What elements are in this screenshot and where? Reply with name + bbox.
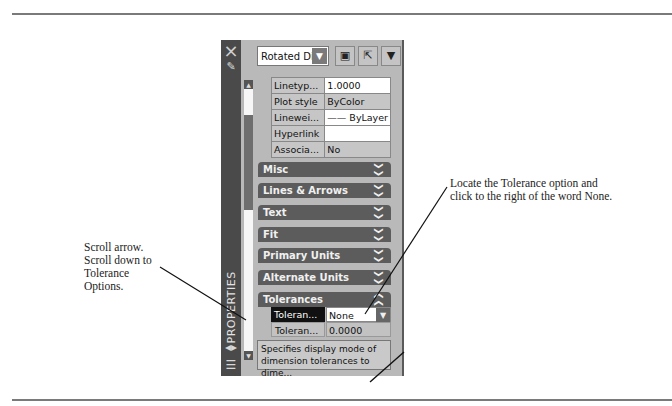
- property-value[interactable]: ByColor: [325, 94, 391, 110]
- callout-line: Scroll arrow.: [84, 241, 204, 254]
- scroll-down-arrow[interactable]: ▼: [244, 351, 253, 360]
- property-key: Linetyp...: [272, 78, 325, 94]
- property-key: Associa...: [272, 142, 325, 158]
- property-row[interactable]: Plot style ByColor: [272, 94, 391, 110]
- pin-icon[interactable]: ✎: [221, 60, 241, 73]
- category-primary-units[interactable]: Primary Units ❯❯: [258, 248, 391, 263]
- category-label: Alternate Units: [263, 272, 349, 283]
- collapse-icon[interactable]: ❯❯: [371, 292, 386, 307]
- property-value[interactable]: 0.0000: [326, 322, 391, 337]
- scroll-thumb[interactable]: [244, 115, 253, 210]
- callout-line: click to the right of the word None.: [450, 190, 670, 203]
- expand-icon[interactable]: ❯❯: [371, 248, 386, 263]
- scroll-track: [244, 89, 253, 115]
- property-value[interactable]: 1.0000: [325, 78, 391, 94]
- property-key: Toleran...: [271, 322, 325, 337]
- callout-line: Tolerance: [84, 267, 204, 280]
- property-value[interactable]: —— ByLayer: [325, 110, 391, 126]
- category-fit[interactable]: Fit ❯❯: [258, 227, 391, 242]
- expand-icon[interactable]: ❯❯: [371, 205, 386, 220]
- chevron-down-icon[interactable]: ▼: [376, 308, 390, 323]
- property-key: Toleran...: [271, 307, 325, 322]
- property-key: Plot style: [272, 94, 325, 110]
- category-label: Misc: [263, 164, 288, 175]
- category-label: Primary Units: [263, 250, 340, 261]
- callout-line: Options.: [84, 280, 204, 293]
- description-box: Specifies display mode of dimension tole…: [257, 340, 391, 370]
- auto-hide-icon[interactable]: ◂▸: [221, 340, 241, 354]
- palette-title: PROPERTIES: [225, 280, 238, 344]
- general-properties-table: Linetyp... 1.0000 Plot style ByColor Lin…: [271, 77, 391, 158]
- bottom-rule: [12, 399, 672, 401]
- vertical-scrollbar[interactable]: ▲ ▼: [244, 80, 253, 360]
- category-label: Lines & Arrows: [263, 185, 348, 196]
- category-label: Tolerances: [263, 294, 323, 305]
- category-text[interactable]: Text ❯❯: [258, 205, 391, 220]
- category-lines-arrows[interactable]: Lines & Arrows ❯❯: [258, 183, 391, 198]
- property-row[interactable]: Linetyp... 1.0000: [272, 78, 391, 94]
- property-row[interactable]: Associa... No: [272, 142, 391, 158]
- scroll-up-arrow[interactable]: ▲: [244, 80, 253, 89]
- scroll-arrow-callout: Scroll arrow. Scroll down to Tolerance O…: [84, 241, 204, 293]
- expand-icon[interactable]: ❯❯: [371, 270, 386, 285]
- top-rule: [12, 13, 672, 15]
- category-tolerances[interactable]: Tolerances ❯❯: [258, 292, 391, 307]
- property-value[interactable]: [325, 126, 391, 142]
- tolerance-display-row[interactable]: Toleran... None ▼: [271, 307, 391, 322]
- property-key: Linewei...: [272, 110, 325, 126]
- category-label: Fit: [263, 229, 278, 240]
- properties-palette: × ✎ PROPERTIES ◂▸ ☰ Rotated Di ▼ ▣ ⇱ ▼ ▲…: [221, 40, 404, 376]
- object-type-select[interactable]: Rotated Di ▼: [257, 46, 329, 66]
- chevron-down-icon[interactable]: ▼: [312, 48, 327, 64]
- callout-line: Locate the Tolerance option and: [450, 177, 670, 190]
- property-value[interactable]: No: [325, 142, 391, 158]
- expand-icon[interactable]: ❯❯: [371, 227, 386, 242]
- property-key: Hyperlink: [272, 126, 325, 142]
- tolerance-display-select[interactable]: None ▼: [326, 307, 391, 322]
- category-misc[interactable]: Misc ❯❯: [258, 162, 391, 177]
- scroll-track: [244, 210, 253, 351]
- category-alternate-units[interactable]: Alternate Units ❯❯: [258, 270, 391, 285]
- property-row[interactable]: Hyperlink: [272, 126, 391, 142]
- toggle-pickadd-button[interactable]: ▣: [335, 46, 355, 66]
- palette-title-strip[interactable]: × ✎ PROPERTIES ◂▸ ☰: [221, 40, 241, 376]
- property-row[interactable]: Linewei... —— ByLayer: [272, 110, 391, 126]
- tolerance-value-row[interactable]: Toleran... 0.0000: [271, 322, 391, 337]
- tolerance-callout: Locate the Tolerance option and click to…: [450, 177, 670, 203]
- properties-menu-icon[interactable]: ☰: [221, 358, 241, 372]
- select-objects-button[interactable]: ⇱: [358, 46, 378, 66]
- close-icon[interactable]: ×: [221, 40, 241, 61]
- category-label: Text: [263, 207, 287, 218]
- expand-icon[interactable]: ❯❯: [371, 183, 386, 198]
- quick-select-button[interactable]: ▼: [381, 46, 401, 66]
- expand-icon[interactable]: ❯❯: [371, 162, 386, 177]
- select-value: None: [329, 310, 354, 321]
- select-value: Rotated Di: [261, 51, 314, 62]
- callout-line: Scroll down to: [84, 254, 204, 267]
